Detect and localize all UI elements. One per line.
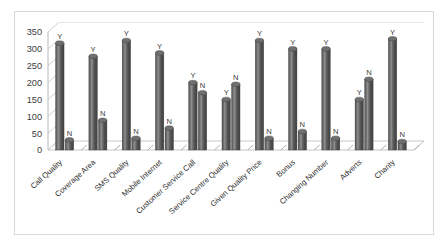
chart-frame	[14, 11, 434, 235]
